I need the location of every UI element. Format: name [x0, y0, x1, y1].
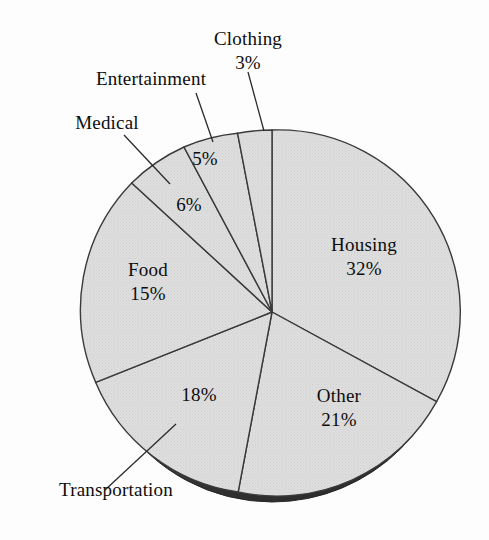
- label-clothing-percent: 3%: [235, 52, 261, 74]
- label-clothing-name: Clothing: [214, 28, 282, 50]
- label-food-percent: 15%: [130, 283, 165, 305]
- pie-chart-svg: [0, 0, 489, 540]
- label-medical-name: Medical: [75, 112, 139, 134]
- label-other-name: Other: [317, 385, 361, 407]
- label-housing-percent: 32%: [346, 258, 381, 280]
- label-food-name: Food: [128, 259, 168, 281]
- pie-slices: [80, 130, 460, 496]
- label-housing-name: Housing: [331, 234, 397, 256]
- label-transportation-percent: 18%: [181, 384, 216, 406]
- leader-line-clothing: [248, 72, 264, 131]
- label-other-percent: 21%: [321, 409, 356, 431]
- label-medical-percent: 6%: [176, 194, 202, 216]
- label-entertainment-name: Entertainment: [96, 68, 206, 90]
- label-transportation-name: Transportation: [59, 479, 173, 501]
- label-entertainment-percent: 5%: [192, 148, 218, 170]
- leader-line-entertainment: [196, 93, 213, 142]
- pie-chart-figure: Clothing 3% Entertainment Medical Transp…: [0, 0, 489, 540]
